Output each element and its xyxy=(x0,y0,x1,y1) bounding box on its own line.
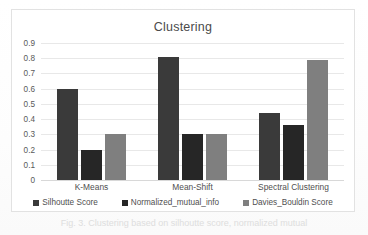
y-axis-tick-label: 0.3 xyxy=(24,130,35,139)
bar[interactable] xyxy=(259,113,280,180)
y-axis-tick-label: 0.4 xyxy=(24,115,35,124)
legend-item[interactable]: Silhoutte Score xyxy=(33,198,98,207)
y-axis-tick-label: 0.6 xyxy=(24,84,35,93)
chart-title: Clustering xyxy=(12,20,354,34)
y-axis-tick-label: 0.8 xyxy=(24,54,35,63)
y-axis-tick-label: 0.9 xyxy=(24,39,35,48)
legend-label: Silhoutte Score xyxy=(42,198,98,207)
bar[interactable] xyxy=(182,134,203,180)
y-axis-tick-label: 0 xyxy=(30,176,35,185)
y-axis-tick-label: 0.2 xyxy=(24,145,35,154)
bar[interactable] xyxy=(158,57,179,180)
bar-group xyxy=(41,43,142,180)
plot-area xyxy=(41,43,344,180)
bar[interactable] xyxy=(206,134,227,180)
bar[interactable] xyxy=(283,125,304,180)
legend-item[interactable]: Normalized_mutual_info xyxy=(122,198,219,207)
legend-swatch-icon xyxy=(33,200,39,206)
legend-label: Davies_Bouldin Score xyxy=(252,198,333,207)
bar[interactable] xyxy=(105,134,126,180)
x-axis-category-label: Mean-Shift xyxy=(142,182,243,192)
legend-swatch-icon xyxy=(122,200,128,206)
y-axis-tick-label: 0.5 xyxy=(24,99,35,108)
bar[interactable] xyxy=(307,60,328,180)
figure-caption: Fig. 3. Clustering based on silhoutte sc… xyxy=(18,218,350,228)
y-axis-tick-label: 0.1 xyxy=(24,160,35,169)
gridline xyxy=(41,180,344,181)
x-axis-category-label: Spectral Clustering xyxy=(243,182,344,192)
bar[interactable] xyxy=(57,89,78,180)
x-axis: K-MeansMean-ShiftSpectral Clustering xyxy=(41,182,344,192)
chart-legend: Silhoutte ScoreNormalized_mutual_infoDav… xyxy=(26,198,340,207)
y-axis-tick-label: 0.7 xyxy=(24,69,35,78)
y-axis: 00.10.20.30.40.50.60.70.80.9 xyxy=(12,43,38,180)
bar-group xyxy=(142,43,243,180)
legend-item[interactable]: Davies_Bouldin Score xyxy=(243,198,333,207)
legend-label: Normalized_mutual_info xyxy=(131,198,219,207)
x-axis-category-label: K-Means xyxy=(41,182,142,192)
legend-swatch-icon xyxy=(243,200,249,206)
bar-groups xyxy=(41,43,344,180)
chart-container: Clustering 00.10.20.30.40.50.60.70.80.9 … xyxy=(11,9,355,212)
bar[interactable] xyxy=(81,150,102,180)
bar-group xyxy=(243,43,344,180)
